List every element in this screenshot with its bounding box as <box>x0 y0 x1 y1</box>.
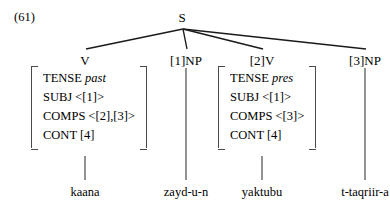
avm-value-cont: [4] <box>267 128 282 142</box>
avm-attribute-tense: TENSE <box>230 71 269 85</box>
avm-attribute-cont: CONT <box>230 128 264 142</box>
syntax-tree-figure: (61) S V [1]NP [2]V [3]NP TENSE past SUB… <box>0 0 390 209</box>
avm-left-bracket-open <box>31 66 38 148</box>
branch-s-to-v2 <box>183 29 263 49</box>
avm-row-cont: CONT [4] <box>43 126 135 145</box>
avm-left-rows: TENSE past SUBJ <[1]> COMPS <[2],[3]> CO… <box>38 66 140 148</box>
avm-right-bracket-open <box>218 66 225 148</box>
terminal-yaktubu: yaktubu <box>242 185 282 200</box>
avm-row-subj: SUBJ <[1]> <box>230 88 304 107</box>
avm-box-left: TENSE past SUBJ <[1]> COMPS <[2],[3]> CO… <box>31 66 147 148</box>
avm-row-tense: TENSE past <box>43 69 135 88</box>
avm-attribute-subj: SUBJ <box>43 90 72 104</box>
branch-s-to-np1 <box>183 29 187 49</box>
avm-row-cont: CONT [4] <box>230 126 304 145</box>
avm-right-rows: TENSE pres SUBJ <[1]> COMPS <[3]> CONT [… <box>225 66 309 148</box>
branch-s-to-v <box>86 29 183 49</box>
avm-value-subj: <[1]> <box>75 90 104 104</box>
avm-value-tense: pres <box>272 71 293 85</box>
avm-right-bracket-close <box>309 66 316 148</box>
avm-attribute-subj: SUBJ <box>230 90 259 104</box>
avm-attribute-tense: TENSE <box>43 71 82 85</box>
avm-row-comps: COMPS <[3]> <box>230 107 304 126</box>
avm-left-bracket-close <box>140 66 147 148</box>
avm-value-cont: [4] <box>80 128 95 142</box>
terminal-kaana: kaana <box>70 185 99 200</box>
avm-box-right: TENSE pres SUBJ <[1]> COMPS <[3]> CONT [… <box>218 66 316 148</box>
tree-node-np1: [1]NP <box>170 53 202 69</box>
avm-attribute-cont: CONT <box>43 128 77 142</box>
terminal-t-taqriir-a: t-taqriir-a <box>341 185 389 200</box>
branch-s-to-np3 <box>183 29 366 49</box>
tree-node-s: S <box>178 10 185 26</box>
avm-row-subj: SUBJ <[1]> <box>43 88 135 107</box>
avm-attribute-comps: COMPS <box>230 109 272 123</box>
avm-value-comps: <[2],[3]> <box>89 109 135 123</box>
avm-value-comps: <[3]> <box>276 109 305 123</box>
tree-node-np3: [3]NP <box>349 53 381 69</box>
avm-attribute-comps: COMPS <box>43 109 85 123</box>
avm-row-comps: COMPS <[2],[3]> <box>43 107 135 126</box>
example-number: (61) <box>14 10 35 25</box>
avm-value-tense: past <box>85 71 106 85</box>
avm-row-tense: TENSE pres <box>230 69 304 88</box>
terminal-zayd-u-n: zayd-u-n <box>164 185 208 200</box>
avm-value-subj: <[1]> <box>262 90 291 104</box>
